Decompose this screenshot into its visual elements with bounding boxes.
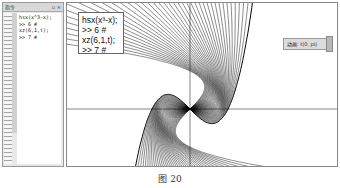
animation-slider[interactable] (326, 36, 333, 52)
animation-button[interactable]: 动画: t(0, pi) (283, 38, 327, 50)
script-line: xz(6,1,t); (82, 35, 120, 45)
figure-caption: 图 20 (0, 172, 340, 185)
rotated-cubic-curves (0, 0, 340, 170)
script-line: >> 7 # (82, 45, 120, 55)
script-line: hsx(x³-x); (82, 15, 120, 25)
script-label: hsx(x³-x); >> 6 # xz(6,1,t); >> 7 # (78, 12, 124, 54)
script-line: >> 6 # (82, 25, 120, 35)
